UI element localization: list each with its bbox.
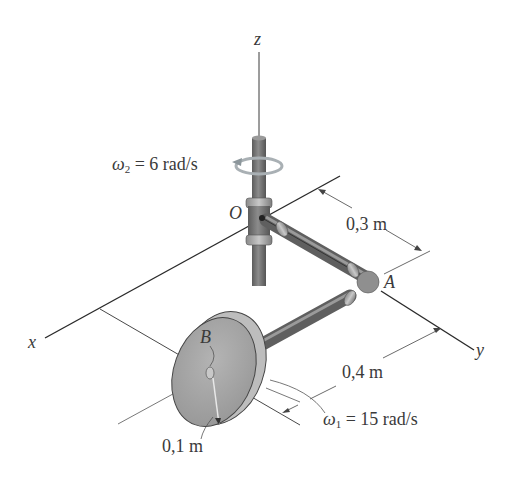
x-axis-label: x: [28, 333, 36, 351]
elbow-a: [357, 271, 379, 293]
dimension-ab-label: 0,4 m: [342, 363, 383, 381]
disk-center-hole: [206, 367, 214, 379]
point-b-label: B: [200, 328, 211, 346]
x-axis-line: [45, 176, 340, 338]
point-a-label: A: [384, 273, 395, 291]
y-axis-label: y: [476, 341, 484, 359]
rotating-assembly-diagram: z x y O A B ω2 = 6 rad/s ω1 = 15 rad/s 0…: [0, 0, 511, 477]
radius-label: 0,1 m: [162, 437, 203, 455]
diagram-canvas: [0, 0, 511, 477]
omega2-label: ω2 = 6 rad/s: [112, 155, 198, 175]
dim-line-oa: [320, 190, 352, 208]
y-axis-line: [381, 291, 474, 350]
omega1-label: ω1 = 15 rad/s: [323, 410, 418, 430]
dimension-oa-label: 0,3 m: [346, 215, 387, 233]
origin-point: [259, 215, 265, 221]
point-o-label: O: [229, 204, 242, 222]
z-axis-label: z: [254, 30, 261, 48]
dim-line-ab: [383, 329, 440, 358]
